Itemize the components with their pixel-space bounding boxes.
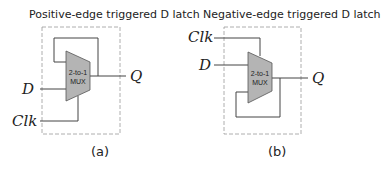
panel-a-clk-wire <box>40 96 78 121</box>
panel-b-q-label: Q <box>312 69 324 87</box>
panel-b-clk-wire <box>214 38 260 56</box>
panel-a-mux-label-2: MUX <box>70 78 86 85</box>
panel-a-title: Positive-edge triggered D latch <box>29 8 200 21</box>
panel-b-clk-label: Clk <box>188 28 213 46</box>
panel-a-mux <box>66 51 90 101</box>
panel-a-diagram: 2-to-1 MUX <box>40 27 126 134</box>
panel-a-q-label: Q <box>130 67 142 85</box>
panel-b-mux-label-2: MUX <box>252 79 268 86</box>
panel-b-diagram: 2-to-1 MUX <box>214 27 308 134</box>
panel-a-clk-label: Clk <box>12 112 37 130</box>
panel-a-mux-label-1: 2-to-1 <box>69 69 87 76</box>
panel-a-caption: (a) <box>91 144 109 159</box>
panel-b-mux-label-1: 2-to-1 <box>251 70 269 77</box>
panel-a-d-label: D <box>22 80 34 98</box>
panel-b-d-label: D <box>199 56 211 74</box>
panel-b-title: Negative-edge triggered D latch <box>203 8 381 21</box>
panel-b-caption: (b) <box>268 144 286 159</box>
panel-b-mux <box>248 52 272 103</box>
